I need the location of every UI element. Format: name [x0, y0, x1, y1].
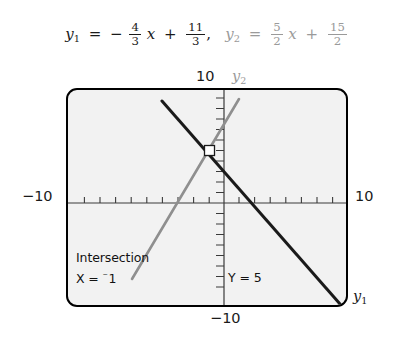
equation-y1-intercept-numerator: 11 — [186, 21, 205, 34]
equation-y2-slope-denominator: 2 — [271, 34, 282, 48]
equation-y2-lhs: y2 — [225, 25, 240, 43]
curve-tag-y1: y1 — [353, 288, 367, 306]
equation-y2-intercept-denominator: 2 — [328, 34, 347, 48]
graphing-calculator-screen[interactable]: Intersection X = ⁻1 Y = 5 — [66, 88, 348, 307]
equation-y2-variable: x — [288, 25, 296, 43]
curve-tag-y1-letter: y — [353, 288, 361, 304]
equation-y2-intercept-numerator: 15 — [328, 21, 347, 34]
curve-tag-y2-subscript: 2 — [240, 75, 246, 86]
intersection-x-readout: X = ⁻1 — [76, 270, 116, 286]
equation-y1-lhs: y1 — [65, 25, 80, 43]
equation-y1-comma: , — [206, 25, 211, 43]
intersection-x-label: X = — [76, 271, 99, 286]
equation-y1-lhs-letter: y — [65, 25, 73, 43]
intersection-readout-title: Intersection — [76, 250, 149, 265]
curve-tag-y1-subscript: 1 — [361, 295, 367, 306]
equation-y1-slope-denominator: 3 — [129, 34, 140, 48]
equation-y1-equals: = — [89, 25, 102, 43]
intersection-cursor — [205, 146, 215, 156]
equation-y2-lhs-letter: y — [225, 25, 233, 43]
equation-y1-slope-fraction: 4 3 — [129, 21, 140, 47]
axis-label-y-max: 10 — [196, 68, 214, 84]
axis-label-x-max: 10 — [355, 188, 373, 204]
curve-tag-y2-letter: y — [232, 68, 240, 84]
equation-y2-plus: + — [306, 25, 319, 43]
equation-y1-intercept-fraction: 11 3 — [186, 21, 205, 47]
equation-y1-intercept-denominator: 3 — [186, 34, 205, 48]
intersection-y-label: Y = — [228, 270, 250, 285]
equation-y1-lead-sign: − — [110, 25, 123, 43]
equation-y2-intercept-fraction: 15 2 — [328, 21, 347, 47]
axis-label-y-min: −10 — [210, 310, 241, 326]
equation-y1: y1 = − 4 3 x + 11 3 , — [65, 22, 211, 48]
equation-y1-lhs-subscript: 1 — [74, 33, 80, 44]
curve-tag-y2: y2 — [232, 68, 246, 86]
equation-y1-slope-numerator: 4 — [129, 21, 140, 34]
x-axis-ticks — [84, 197, 332, 203]
equation-y1-variable: x — [147, 25, 155, 43]
equation-y2-slope-fraction: 5 2 — [271, 21, 282, 47]
intersection-y-value: 5 — [254, 270, 262, 285]
equation-y2-slope-numerator: 5 — [271, 21, 282, 34]
equation-y2-equals: = — [249, 25, 262, 43]
equation-y2-lhs-subscript: 2 — [234, 33, 240, 44]
equation-y1-plus: + — [164, 25, 177, 43]
equation-caption: y1 = − 4 3 x + 11 3 , y2 = 5 2 x + 15 2 — [0, 22, 413, 48]
intersection-y-readout: Y = 5 — [228, 270, 262, 285]
equation-y2: y2 = 5 2 x + 15 2 — [225, 22, 348, 48]
axis-label-x-min: −10 — [22, 188, 53, 204]
intersection-x-value: 1 — [108, 271, 116, 286]
